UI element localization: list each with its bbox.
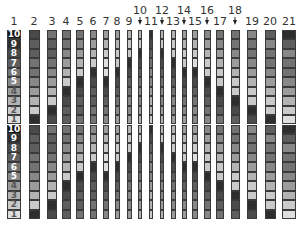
strip-cell	[182, 39, 187, 48]
strip-cell	[115, 39, 120, 48]
strip-cell	[138, 172, 142, 181]
reference-level-label: 6	[8, 163, 20, 170]
strip-cell	[247, 58, 257, 67]
strip-cell	[103, 162, 109, 171]
strip-cell	[76, 172, 84, 181]
reference-level-label: 4	[8, 182, 20, 189]
strip-cell	[160, 39, 164, 48]
strip-cell	[182, 77, 187, 86]
strip-cell	[62, 39, 71, 48]
strip-cell	[231, 30, 240, 39]
strip-cell	[90, 49, 97, 58]
reference-level-label: 3	[8, 192, 20, 199]
strip-cell	[90, 39, 97, 48]
strip-cell	[29, 191, 40, 200]
reference-level-label: 8	[8, 50, 20, 57]
strip-cell	[182, 162, 187, 171]
strip-cell	[216, 200, 224, 209]
strip-cell	[115, 68, 120, 77]
strip-cell	[171, 39, 176, 48]
strip-cell	[192, 125, 198, 134]
strip-cell	[247, 87, 257, 96]
strip-cell	[216, 181, 224, 190]
strip-cell	[216, 162, 224, 171]
column-label: 15	[188, 16, 202, 27]
strip-cell	[115, 153, 120, 162]
strip-cell	[62, 58, 71, 67]
strip-cell	[115, 30, 120, 39]
strip-cell	[47, 143, 57, 152]
strip-cell	[182, 143, 187, 152]
strip-cell	[149, 39, 153, 48]
strip-cell	[182, 210, 187, 219]
strip-cell	[127, 210, 132, 219]
reference-level-label: 1	[8, 116, 20, 123]
column-label: 21	[282, 16, 296, 27]
strip-cell	[76, 210, 84, 219]
strip-cell	[62, 210, 71, 219]
strip-cell	[204, 200, 211, 209]
strip-cell	[62, 30, 71, 39]
strip-cell	[160, 49, 164, 58]
strip-cell	[182, 153, 187, 162]
strip-cell	[90, 77, 97, 86]
strip-cell	[231, 77, 240, 86]
strip-cell	[247, 153, 257, 162]
strip-cell	[115, 172, 120, 181]
strip-cell	[127, 172, 132, 181]
strip-cell	[62, 162, 71, 171]
gray-strip	[247, 30, 257, 219]
column-label: 9	[126, 16, 133, 27]
strip-cell	[192, 96, 198, 105]
strip-cell	[138, 77, 142, 86]
gray-strip	[216, 30, 224, 219]
strip-cell	[247, 172, 257, 181]
strip-cell	[192, 143, 198, 152]
strip-cell	[192, 134, 198, 143]
strip-cell	[29, 58, 40, 67]
strip-cell	[231, 191, 240, 200]
strip-cell	[160, 134, 164, 143]
strip-cell	[171, 96, 176, 105]
strip-cell	[265, 58, 276, 67]
gray-strip	[192, 30, 198, 219]
strip-cell	[149, 162, 153, 171]
strip-cell	[29, 96, 40, 105]
strip-cell	[149, 106, 153, 115]
strip-cell	[160, 77, 164, 86]
strip-cell	[204, 125, 211, 134]
strip-cell	[192, 153, 198, 162]
strip-cell	[62, 143, 71, 152]
strip-cell	[204, 96, 211, 105]
strip-cell	[76, 125, 84, 134]
strip-cell	[149, 191, 153, 200]
strip-cell	[127, 115, 132, 124]
gray-strip	[160, 30, 164, 219]
strip-cell	[282, 115, 296, 124]
strip-cell	[171, 172, 176, 181]
strip-cell	[204, 30, 211, 39]
strip-cell	[47, 153, 57, 162]
strip-cell	[29, 30, 40, 39]
strip-diagram: 1109876543211098765432123456789101112131…	[0, 0, 304, 229]
strip-cell	[62, 115, 71, 124]
strip-cell	[282, 153, 296, 162]
strip-cell	[115, 162, 120, 171]
strip-cell	[282, 87, 296, 96]
strip-cell	[149, 181, 153, 190]
strip-cell: 8	[7, 49, 21, 58]
strip-cell	[216, 153, 224, 162]
strip-cell	[204, 106, 211, 115]
strip-cell	[47, 191, 57, 200]
strip-cell	[182, 30, 187, 39]
strip-cell	[265, 77, 276, 86]
strip-cell	[247, 143, 257, 152]
strip-cell	[160, 191, 164, 200]
strip-cell	[90, 68, 97, 77]
strip-cell	[247, 68, 257, 77]
strip-cell	[115, 115, 120, 124]
strip-cell	[216, 77, 224, 86]
strip-cell	[265, 125, 276, 134]
strip-cell	[76, 39, 84, 48]
reference-level-label: 9	[8, 135, 20, 142]
